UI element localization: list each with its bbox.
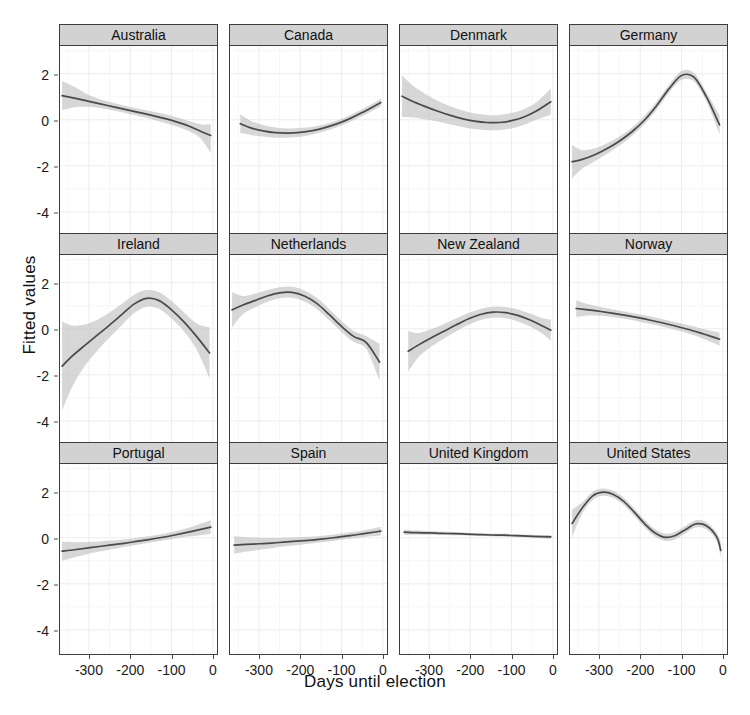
y-tick-mark [54, 74, 58, 75]
y-tick-mark [54, 283, 58, 284]
facet-plot-area [399, 463, 558, 655]
facet-strip: Portugal [59, 442, 218, 464]
x-tick-mark [470, 655, 471, 659]
x-tick-mark [89, 655, 90, 659]
facet-plot-area [229, 45, 388, 237]
facet-strip: Canada [229, 24, 388, 46]
gridlines [400, 464, 557, 653]
x-tick-mark [599, 655, 600, 659]
facet-strip-label: Netherlands [271, 237, 347, 251]
y-tick-label: 2 [15, 485, 49, 501]
facet-strip: Norway [569, 233, 728, 255]
facet-plot-area [569, 254, 728, 446]
facet-plot-area [229, 254, 388, 446]
facet-strip: United Kingdom [399, 442, 558, 464]
y-tick-label: -4 [15, 414, 49, 430]
x-tick-mark [723, 655, 724, 659]
x-tick-mark [553, 655, 554, 659]
x-tick-mark [383, 655, 384, 659]
facet-panel-united-states: United States [569, 442, 728, 655]
facet-strip: Ireland [59, 233, 218, 255]
gridlines [570, 46, 727, 235]
y-tick-mark [54, 329, 58, 330]
confidence-ribbon [240, 99, 380, 138]
facet-strip: Denmark [399, 24, 558, 46]
facet-strip-label: United Kingdom [429, 446, 529, 460]
x-tick-mark [640, 655, 641, 659]
facet-strip: United States [569, 442, 728, 464]
facet-strip: Netherlands [229, 233, 388, 255]
facet-strip-label: United States [606, 446, 690, 460]
y-tick-mark [54, 584, 58, 585]
facet-strip-label: Denmark [450, 28, 507, 42]
facet-plot-area [59, 463, 218, 655]
x-tick-mark [682, 655, 683, 659]
y-tick-label: 0 [15, 531, 49, 547]
x-tick-label: 0 [379, 662, 387, 678]
facet-plot-area [399, 254, 558, 446]
gridlines [230, 464, 387, 653]
y-tick-label: 0 [15, 113, 49, 129]
confidence-ribbon [62, 290, 209, 411]
facet-plot-area [229, 463, 388, 655]
y-tick-label: -2 [15, 368, 49, 384]
y-tick-mark [54, 538, 58, 539]
gridlines [60, 46, 217, 235]
x-tick-label: -100 [498, 662, 526, 678]
facet-plot-area [59, 254, 218, 446]
x-tick-label: -300 [245, 662, 273, 678]
confidence-ribbon [62, 520, 211, 561]
facet-plot-area [59, 45, 218, 237]
x-tick-label: -300 [585, 662, 613, 678]
facet-strip-label: Ireland [117, 237, 160, 251]
x-tick-label: 0 [549, 662, 557, 678]
facet-panel-ireland: Ireland [59, 233, 218, 446]
facet-strip: Australia [59, 24, 218, 46]
facet-strip-label: Norway [625, 237, 672, 251]
facet-panel-norway: Norway [569, 233, 728, 446]
scan-edge [0, 700, 750, 715]
facet-strip-label: Canada [284, 28, 333, 42]
facet-panel-denmark: Denmark [399, 24, 558, 237]
facet-plot-area [399, 45, 558, 237]
x-tick-label: -100 [328, 662, 356, 678]
gridlines [570, 255, 727, 444]
facet-panel-germany: Germany [569, 24, 728, 237]
x-tick-label: -100 [158, 662, 186, 678]
y-tick-mark [54, 375, 58, 376]
facet-panel-united-kingdom: United Kingdom [399, 442, 558, 655]
gridlines [230, 255, 387, 444]
x-tick-label: -300 [75, 662, 103, 678]
facet-chart-figure: Fitted values Days until election Austra… [0, 0, 750, 715]
x-tick-mark [342, 655, 343, 659]
facet-strip: New Zealand [399, 233, 558, 255]
y-tick-label: 0 [15, 322, 49, 338]
gridlines [400, 46, 557, 235]
facet-panel-netherlands: Netherlands [229, 233, 388, 446]
facet-strip-label: Germany [620, 28, 678, 42]
facet-panel-portugal: Portugal [59, 442, 218, 655]
y-tick-mark [54, 166, 58, 167]
y-tick-mark [54, 212, 58, 213]
facet-strip-label: Portugal [112, 446, 164, 460]
facet-panel-canada: Canada [229, 24, 388, 237]
facet-strip-label: Spain [291, 446, 327, 460]
x-tick-mark [172, 655, 173, 659]
facet-strip: Spain [229, 442, 388, 464]
x-tick-mark [512, 655, 513, 659]
x-tick-label: -200 [456, 662, 484, 678]
y-tick-label: 2 [15, 276, 49, 292]
confidence-ribbon [576, 300, 719, 346]
facet-strip: Germany [569, 24, 728, 46]
x-tick-label: 0 [719, 662, 727, 678]
facet-panel-new-zealand: New Zealand [399, 233, 558, 446]
y-tick-label: -2 [15, 577, 49, 593]
gridlines [60, 464, 217, 653]
facet-strip-label: Australia [111, 28, 165, 42]
x-tick-label: -200 [116, 662, 144, 678]
facet-strip-label: New Zealand [437, 237, 520, 251]
facet-panel-australia: Australia [59, 24, 218, 237]
facet-plot-area [569, 463, 728, 655]
y-tick-mark [54, 120, 58, 121]
y-tick-label: -4 [15, 205, 49, 221]
